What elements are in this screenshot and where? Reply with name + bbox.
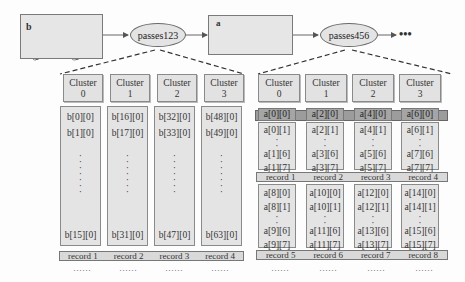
left-column-0: b[0][0] b[1][0] ······· b[15][0] bbox=[60, 106, 101, 246]
header-cell: a[2][0] bbox=[306, 108, 344, 121]
cell: a[14][0] bbox=[402, 188, 438, 199]
cell: b[33][0] bbox=[155, 128, 194, 139]
right-upper-column-1: a[2][1] ·· a[3][6] a[3][7] bbox=[306, 122, 344, 170]
vertical-ellipsis: ·· bbox=[355, 214, 391, 226]
cell: a[9][6] bbox=[259, 226, 295, 237]
cluster-title: Cluster bbox=[205, 78, 243, 89]
cluster-title: Cluster bbox=[353, 78, 393, 89]
continuation-ellipsis: …… bbox=[105, 263, 151, 273]
record-label: record 8 bbox=[400, 250, 448, 260]
more-passes-ellipsis: ••• bbox=[399, 27, 412, 42]
right-record-bar-upper: record 1 record 2 record 3 record 4 bbox=[256, 172, 448, 182]
right-upper-column-0: a[0][1] ·· a[1][6] a[1][7] bbox=[258, 122, 296, 170]
record-label: record 6 bbox=[305, 250, 353, 260]
left-cluster-2: Cluster 2 bbox=[157, 74, 197, 102]
header-cell: a[0][0] bbox=[258, 108, 296, 121]
record-label: record 2 bbox=[106, 251, 152, 261]
left-column-1: b[16][0] b[17][0] ······· b[31][0] bbox=[107, 106, 148, 246]
right-lower-column-1: a[10][0] a[10][1] ·· a[11][6] a[11][7] bbox=[306, 184, 344, 248]
cluster-title: Cluster bbox=[158, 78, 196, 89]
record-label: record 1 bbox=[60, 251, 106, 261]
cell: a[15][6] bbox=[402, 226, 438, 237]
right-lower-column-2: a[12][0] a[12][1] ·· a[13][6] a[13][7] bbox=[354, 184, 392, 248]
record-label: record 1 bbox=[257, 172, 305, 182]
vertical-ellipsis: ·· bbox=[307, 137, 343, 149]
left-column-2: b[32][0] b[33][0] ······· b[47][0] bbox=[154, 106, 195, 246]
right-upper-column-3: a[6][1] ·· a[7][6] a[7][7] bbox=[401, 122, 439, 170]
cell: b[16][0] bbox=[108, 112, 147, 123]
continuation-ellipsis: …… bbox=[59, 263, 105, 273]
header-cell: a[4][0] bbox=[354, 108, 392, 121]
vertical-ellipsis: ·· bbox=[259, 214, 295, 226]
cluster-index: 0 bbox=[259, 89, 299, 100]
cluster-index: 1 bbox=[111, 89, 149, 100]
cell: b[48][0] bbox=[202, 112, 241, 123]
cluster-title: Cluster bbox=[306, 78, 346, 89]
array-a-box: a bbox=[208, 15, 293, 55]
cell: b[17][0] bbox=[108, 128, 147, 139]
continuation-ellipsis: …… bbox=[197, 263, 243, 273]
vertical-ellipsis: ·· bbox=[402, 137, 438, 149]
right-cluster-1: Cluster 1 bbox=[305, 74, 347, 102]
cluster-title: Cluster bbox=[400, 78, 440, 89]
cell: b[1][0] bbox=[61, 128, 100, 139]
vertical-ellipsis: ······· bbox=[108, 153, 147, 195]
right-lower-column-0: a[8][0] a[8][1] ·· a[9][6] a[9][7] bbox=[258, 184, 296, 248]
cluster-index: 3 bbox=[205, 89, 243, 100]
cluster-title: Cluster bbox=[64, 78, 102, 89]
vertical-ellipsis: ·· bbox=[355, 137, 391, 149]
right-record-bar-lower: record 5 record 6 record 7 record 8 bbox=[256, 250, 448, 260]
cell: b[49][0] bbox=[202, 128, 241, 139]
cluster-index: 1 bbox=[306, 89, 346, 100]
cell: b[15][0] bbox=[61, 230, 100, 241]
record-label: record 7 bbox=[352, 250, 400, 260]
header-cell: a[6][0] bbox=[401, 108, 439, 121]
right-upper-column-2: a[4][1] ·· a[5][6] a[5][7] bbox=[354, 122, 392, 170]
continuation-ellipsis: …… bbox=[400, 263, 448, 273]
array-b-label: b bbox=[26, 21, 32, 32]
cluster-title: Cluster bbox=[259, 78, 299, 89]
record-label: record 4 bbox=[400, 172, 448, 182]
cell: a[3][6] bbox=[307, 149, 343, 160]
vertical-ellipsis: ······· bbox=[61, 153, 100, 195]
continuation-ellipsis: …… bbox=[352, 263, 400, 273]
array-a-label: a bbox=[216, 18, 221, 28]
cluster-title: Cluster bbox=[111, 78, 149, 89]
cell: a[1][6] bbox=[259, 149, 295, 160]
passes456-node: passes456 bbox=[320, 23, 378, 47]
cell: b[31][0] bbox=[108, 230, 147, 241]
record-label: record 3 bbox=[352, 172, 400, 182]
cell: b[0][0] bbox=[61, 112, 100, 123]
left-cluster-1: Cluster 1 bbox=[110, 74, 150, 102]
cell: a[8][0] bbox=[259, 188, 295, 199]
vertical-ellipsis: ·· bbox=[259, 137, 295, 149]
record-label: record 2 bbox=[305, 172, 353, 182]
vertical-ellipsis: ·· bbox=[307, 214, 343, 226]
record-label: record 5 bbox=[257, 250, 305, 260]
cluster-index: 2 bbox=[353, 89, 393, 100]
vertical-ellipsis: ······· bbox=[202, 153, 241, 195]
cell: a[7][6] bbox=[402, 149, 438, 160]
diagram-canvas: b passes123 a passes456 ••• Cluster 0 Cl… bbox=[0, 0, 465, 282]
right-cluster-3: Cluster 3 bbox=[399, 74, 441, 102]
left-column-3: b[48][0] b[49][0] ······· b[63][0] bbox=[201, 106, 242, 246]
right-lower-column-3: a[14][0] a[14][1] ·· a[15][6] a[15][7] bbox=[401, 184, 439, 248]
record-label: record 3 bbox=[152, 251, 198, 261]
vertical-ellipsis: ······· bbox=[155, 153, 194, 195]
vertical-ellipsis: ·· bbox=[402, 214, 438, 226]
right-cluster-2: Cluster 2 bbox=[352, 74, 394, 102]
right-cluster-0: Cluster 0 bbox=[258, 74, 300, 102]
array-b-box: b bbox=[20, 14, 103, 59]
cell: b[63][0] bbox=[202, 230, 241, 241]
cell: b[32][0] bbox=[155, 112, 194, 123]
cluster-index: 2 bbox=[158, 89, 196, 100]
continuation-ellipsis: …… bbox=[151, 263, 197, 273]
cell: a[5][6] bbox=[355, 149, 391, 160]
cell: b[47][0] bbox=[155, 230, 194, 241]
cell: a[12][0] bbox=[355, 188, 391, 199]
cell: a[10][0] bbox=[307, 188, 343, 199]
cell: a[11][6] bbox=[307, 226, 343, 237]
continuation-ellipsis: …… bbox=[256, 263, 304, 273]
left-cluster-3: Cluster 3 bbox=[204, 74, 244, 102]
cluster-index: 3 bbox=[400, 89, 440, 100]
